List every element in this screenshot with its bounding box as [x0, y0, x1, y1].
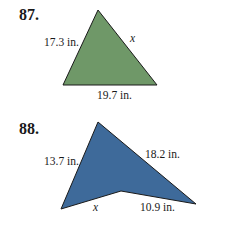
label-87-bottom-side: 19.7 in. [97, 89, 132, 101]
label-88-upper-right-side: 18.2 in. [145, 148, 180, 160]
problem-number-88: 88. [19, 120, 39, 138]
problem-number-87: 87. [19, 6, 39, 24]
label-88-left-side: 13.7 in. [44, 155, 79, 167]
label-88-lower-right-side: 10.9 in. [140, 201, 175, 213]
label-87-right-side: x [130, 32, 135, 44]
label-87-left-side: 17.3 in. [44, 36, 79, 48]
label-88-lower-left-side: x [93, 201, 98, 213]
concave-quadrilateral-88 [61, 122, 196, 209]
figures-canvas [0, 0, 235, 232]
